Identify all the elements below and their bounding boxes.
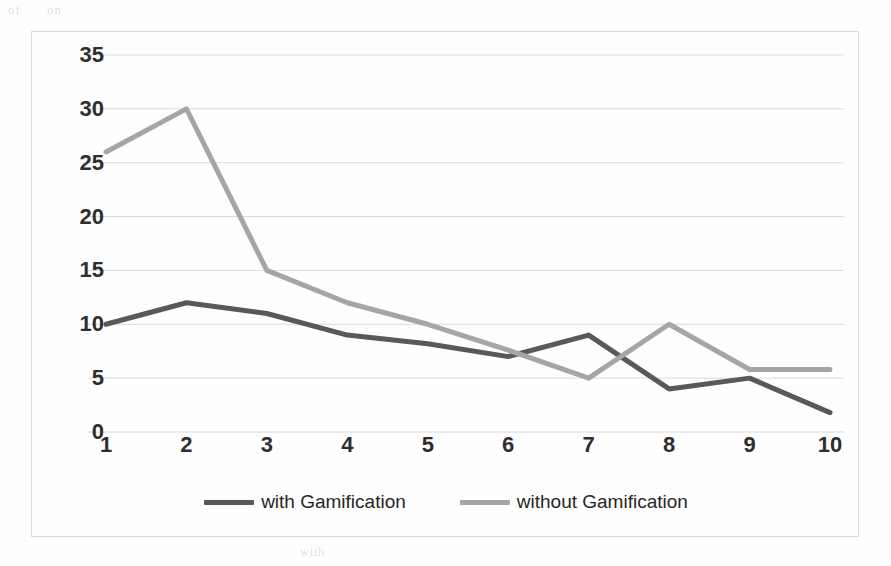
legend-color-swatch	[204, 500, 254, 505]
x-axis-tick-label: 1	[100, 432, 112, 458]
y-axis-tick-label: 20	[60, 204, 104, 230]
y-axis-tick-label: 25	[60, 150, 104, 176]
y-axis-tick-label: 30	[60, 96, 104, 122]
chart-frame: 05101520253035 12345678910 with Gamifica…	[31, 31, 859, 537]
x-axis-tick-label: 9	[743, 432, 755, 458]
y-axis: 05101520253035	[32, 32, 104, 472]
x-axis-tick-label: 4	[341, 432, 353, 458]
series-line-1	[106, 303, 830, 413]
legend-item-1[interactable]: with Gamification	[204, 491, 406, 513]
series-line-2	[106, 109, 830, 378]
legend-item-label: without Gamification	[517, 491, 688, 513]
legend-item-label: with Gamification	[261, 491, 406, 513]
legend-color-swatch	[460, 500, 510, 505]
scan-ghost-text-top: of on	[8, 2, 62, 18]
x-axis-tick-label: 6	[502, 432, 514, 458]
x-axis-tick-label: 2	[180, 432, 192, 458]
scan-ghost-text-bottom: with	[300, 545, 325, 560]
x-axis-tick-label: 3	[261, 432, 273, 458]
plot-area	[32, 32, 860, 472]
x-axis-tick-label: 7	[583, 432, 595, 458]
x-axis: 12345678910	[32, 432, 860, 478]
y-axis-tick-label: 15	[60, 257, 104, 283]
x-axis-tick-label: 5	[422, 432, 434, 458]
line-chart-svg	[32, 32, 860, 472]
chart-legend: with Gamificationwithout Gamification	[32, 482, 860, 522]
y-axis-tick-label: 35	[60, 42, 104, 68]
y-axis-tick-label: 10	[60, 311, 104, 337]
x-axis-tick-label: 8	[663, 432, 675, 458]
x-axis-tick-label: 10	[818, 432, 842, 458]
y-axis-tick-label: 5	[60, 365, 104, 391]
legend-item-2[interactable]: without Gamification	[460, 491, 688, 513]
